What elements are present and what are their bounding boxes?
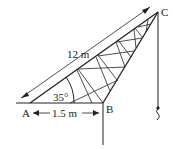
hook-icon — [157, 108, 160, 120]
label-a: A — [22, 107, 30, 119]
member-bc — [103, 12, 158, 103]
label-angle-a: 35° — [53, 91, 68, 103]
label-b: B — [106, 103, 113, 115]
label-length-ab: 1.5 m — [52, 107, 78, 119]
crane-diagram: C A B 12 m 1.5 m 35° — [0, 0, 173, 149]
arrowhead-ab-right — [93, 110, 99, 116]
label-length-ac: 12 m — [67, 48, 90, 60]
arrowhead-ac-upper — [142, 7, 150, 14]
boom-ac — [30, 12, 158, 103]
label-c: C — [161, 6, 168, 18]
arrowhead-ab-left — [33, 110, 39, 116]
